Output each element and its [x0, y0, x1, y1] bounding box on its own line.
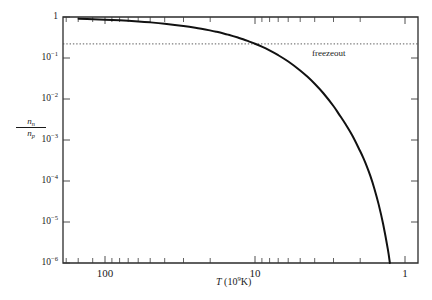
- x-tick-label-100: 100: [80, 268, 130, 279]
- y-axis-title-denominator: np: [16, 127, 46, 139]
- y-tick-label-1e-5: 10−5: [14, 217, 58, 227]
- x-axis-title: T (109K): [216, 277, 251, 287]
- y-axis-title-numerator: nn: [16, 116, 46, 127]
- freezeout-label: freezeout: [312, 49, 345, 58]
- y-tick-label-1e-1: 10−1: [14, 53, 58, 63]
- axis-ticks-major: [63, 17, 418, 263]
- y-tick-label-1e-2: 10−2: [14, 94, 58, 104]
- axis-frame: [63, 17, 418, 263]
- figure-container: 1 10−1 10−2 10−3 10−4 10−5 10−6 nn np 10…: [0, 0, 432, 300]
- y-axis-title: nn np: [16, 116, 46, 138]
- x-tick-label-1: 1: [380, 268, 430, 279]
- y-tick-label-1e-4: 10−4: [14, 176, 58, 186]
- plot-canvas: [0, 0, 432, 300]
- y-tick-label-1: 1: [14, 12, 58, 22]
- y-tick-label-1e-6: 10−6: [14, 258, 58, 268]
